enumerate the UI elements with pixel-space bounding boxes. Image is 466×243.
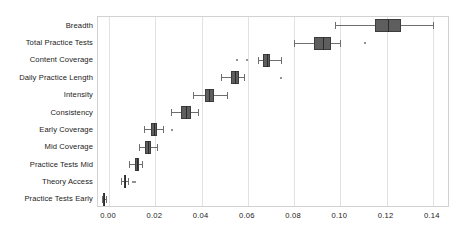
whisker-high — [214, 95, 227, 96]
y-category-label: Mid Coverage — [0, 142, 93, 151]
cap-low — [139, 144, 140, 151]
x-tick-label: 0.02 — [147, 211, 163, 220]
y-category-label: Content Coverage — [0, 55, 93, 64]
y-category-label: Theory Access — [0, 176, 93, 185]
median-line — [137, 158, 138, 171]
y-category-label: Practice Tests Early — [0, 194, 93, 203]
x-axis-tick-labels: 0.000.020.040.060.080.100.120.14 — [0, 208, 466, 228]
x-tick-label: 0.14 — [424, 211, 440, 220]
cap-high — [433, 22, 434, 29]
outlier-point — [280, 77, 282, 79]
whisker-low — [335, 25, 375, 26]
median-line — [235, 71, 236, 84]
y-axis-category-labels: BreadthTotal Practice TestsContent Cover… — [0, 16, 93, 207]
y-category-label: Total Practice Tests — [0, 38, 93, 47]
cap-low — [221, 74, 222, 81]
outlier-point — [171, 129, 173, 131]
whisker-high — [401, 25, 433, 26]
x-tick-label: 0.04 — [193, 211, 209, 220]
gridline-0.12 — [387, 17, 388, 206]
cap-high — [157, 144, 158, 151]
cap-low — [144, 126, 145, 133]
x-tick-label: 0.08 — [285, 211, 301, 220]
cap-low — [121, 178, 122, 185]
cap-high — [244, 74, 245, 81]
cap-low — [129, 161, 130, 168]
outlier-point — [236, 59, 238, 61]
x-tick-label: 0.06 — [239, 211, 255, 220]
y-category-label: Intensity — [0, 90, 93, 99]
y-category-label: Consistency — [0, 107, 93, 116]
gridline-0.02 — [155, 17, 156, 206]
cap-high — [128, 178, 129, 185]
plot-area — [97, 16, 449, 207]
cap-low — [335, 22, 336, 29]
whisker-low — [144, 129, 151, 130]
cap-low — [171, 109, 172, 116]
cap-high — [198, 109, 199, 116]
y-category-label: Breadth — [0, 20, 93, 29]
cap-high — [227, 92, 228, 99]
cap-low — [294, 40, 295, 47]
outlier-point — [364, 42, 366, 44]
cap-low — [193, 92, 194, 99]
gridline-0.14 — [433, 17, 434, 206]
y-category-label: Early Coverage — [0, 124, 93, 133]
boxplot-chart: BreadthTotal Practice TestsContent Cover… — [0, 0, 466, 243]
whisker-low — [193, 95, 205, 96]
median-line — [125, 175, 126, 188]
gridline-0.04 — [202, 17, 203, 206]
cap-high — [163, 126, 164, 133]
cap-low — [258, 57, 259, 64]
median-line — [388, 19, 389, 32]
gridline-0.06 — [248, 17, 249, 206]
whisker-low — [221, 77, 231, 78]
median-line — [148, 141, 149, 154]
x-tick-label: 0.12 — [378, 211, 394, 220]
outlier-point — [134, 181, 136, 183]
cap-high — [142, 161, 143, 168]
x-tick-label: 0.10 — [332, 211, 348, 220]
whisker-high — [191, 112, 198, 113]
y-category-label: Practice Tests Mid — [0, 159, 93, 168]
whisker-low — [294, 43, 314, 44]
median-line — [323, 37, 324, 50]
cap-high — [106, 196, 107, 203]
whisker-high — [270, 60, 280, 61]
y-category-label: Daily Practice Length — [0, 72, 93, 81]
median-line — [267, 54, 268, 67]
whisker-high — [331, 43, 341, 44]
median-line — [209, 89, 210, 102]
median-line — [186, 106, 187, 119]
whisker-low — [171, 112, 181, 113]
cap-high — [281, 57, 282, 64]
x-tick-label: 0.00 — [100, 211, 116, 220]
cap-high — [340, 40, 341, 47]
median-line — [154, 123, 155, 136]
gridline-0.00 — [109, 17, 110, 206]
median-line — [104, 193, 105, 206]
